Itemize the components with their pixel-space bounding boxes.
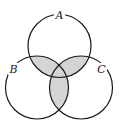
label-a: A bbox=[55, 9, 64, 22]
label-c: C bbox=[97, 63, 106, 76]
venn-diagram: A B C bbox=[0, 0, 120, 131]
label-b: B bbox=[8, 63, 17, 76]
